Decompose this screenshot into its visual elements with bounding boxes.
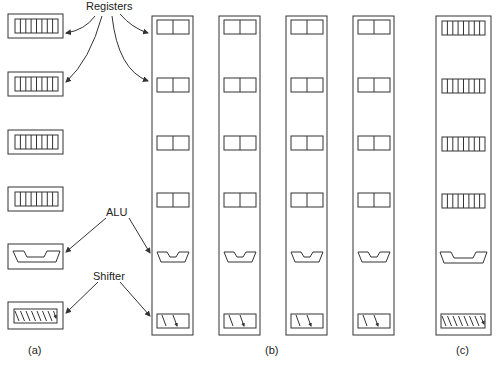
panel-c-register-1 bbox=[442, 21, 485, 35]
panel-b-column-1 bbox=[152, 16, 193, 335]
panel-b-column-2 bbox=[219, 16, 260, 335]
panel-a-register-4 bbox=[8, 187, 63, 211]
panel-b-column-3 bbox=[286, 16, 327, 335]
panel-a-alu bbox=[8, 244, 63, 269]
panel-c-register-3 bbox=[442, 137, 485, 151]
panel-b-label: (b) bbox=[265, 344, 278, 356]
panel-b-column-4 bbox=[353, 16, 394, 335]
panel-c-register-2 bbox=[442, 79, 485, 93]
panel-c-shifter bbox=[441, 314, 485, 328]
panel-c bbox=[436, 16, 491, 335]
panel-c-label: (c) bbox=[456, 344, 469, 356]
panel-a bbox=[8, 14, 63, 329]
shifter-callout-arrows bbox=[66, 282, 150, 316]
panel-c-register-4 bbox=[442, 194, 485, 208]
panel-a-register-1 bbox=[8, 14, 63, 38]
panel-b bbox=[152, 16, 394, 335]
registers-label: Registers bbox=[86, 0, 132, 12]
bit-slice-diagram bbox=[0, 0, 499, 368]
panel-a-register-2 bbox=[8, 72, 63, 96]
shifter-label: Shifter bbox=[93, 270, 125, 282]
alu-label: ALU bbox=[106, 206, 127, 218]
panel-a-register-3 bbox=[8, 130, 63, 154]
panel-a-shifter bbox=[8, 302, 63, 329]
registers-callout-arrows bbox=[66, 14, 148, 82]
panel-c-alu bbox=[440, 252, 487, 263]
alu-callout-arrows bbox=[66, 218, 150, 253]
panel-a-label: (a) bbox=[28, 344, 41, 356]
